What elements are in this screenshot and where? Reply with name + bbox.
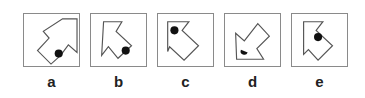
option-d-box[interactable] [224, 13, 281, 67]
arrow-shape-icon [236, 24, 270, 60]
option-d-label: d [224, 73, 281, 90]
arrow-figure-icon [91, 14, 146, 66]
arrow-shape-icon [38, 19, 77, 64]
dot-icon [122, 47, 130, 55]
dot-icon [55, 49, 63, 57]
option-e-box[interactable] [291, 13, 348, 67]
dot-icon [170, 26, 178, 34]
option-b-box[interactable] [90, 13, 147, 67]
arrow-figure-icon [292, 14, 347, 66]
option-c-label: c [157, 73, 214, 90]
option-e-label: e [291, 73, 348, 90]
arrow-figure-icon [225, 14, 280, 66]
arrow-figure-icon [158, 14, 213, 66]
arrow-figure-icon [24, 14, 79, 66]
option-a-box[interactable] [23, 13, 80, 67]
dot-icon [314, 33, 322, 41]
option-a-label: a [23, 73, 80, 90]
option-c-box[interactable] [157, 13, 214, 67]
option-b-label: b [90, 73, 147, 90]
